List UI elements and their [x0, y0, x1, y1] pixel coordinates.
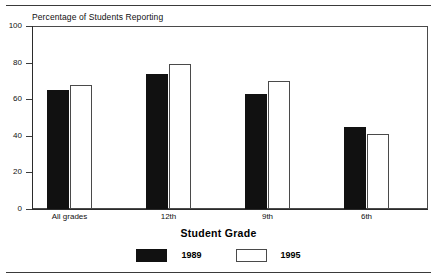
x-tick-label-9th: 9th: [225, 213, 310, 221]
y-tick-label-80: 80: [0, 59, 22, 67]
y-tick-100: [26, 26, 32, 27]
top-divider-rule: [6, 5, 431, 6]
chart-title: Percentage of Students Reporting: [32, 12, 163, 22]
y-tick-label-20: 20: [0, 168, 22, 176]
y-tick-40: [26, 136, 32, 137]
bar-1989-12th: [146, 74, 168, 209]
y-tick-label-0: 0: [0, 205, 22, 213]
legend-label-1995: 1995: [281, 251, 301, 260]
y-tick-20: [26, 172, 32, 173]
bar-1995-all-grades: [70, 85, 92, 209]
chart-figure: Percentage of Students Reporting 100 80 …: [0, 0, 437, 279]
y-tick-80: [26, 63, 32, 64]
y-tick-60: [26, 99, 32, 100]
y-tick-label-100: 100: [0, 22, 22, 30]
x-tick-label-12th: 12th: [126, 213, 211, 221]
bar-1995-12th: [169, 64, 191, 209]
x-axis-title: Student Grade: [0, 227, 437, 239]
legend-label-1989: 1989: [181, 251, 201, 260]
bar-1989-all-grades: [47, 90, 69, 209]
bottom-divider-rule: [6, 272, 431, 273]
x-axis-line: [32, 209, 428, 210]
x-tick-label-all-grades: All grades: [27, 213, 112, 221]
bar-1995-9th: [268, 81, 290, 209]
y-tick-0: [26, 209, 32, 210]
legend-swatch-1995: [236, 249, 267, 262]
y-axis-line: [32, 26, 33, 210]
bar-1995-6th: [367, 134, 389, 209]
y-tick-label-40: 40: [0, 132, 22, 140]
legend-swatch-1989: [136, 249, 167, 262]
y-tick-label-60: 60: [0, 95, 22, 103]
legend-item-1989: 1989: [136, 249, 201, 262]
chart-legend: 1989 1995: [0, 249, 437, 262]
bar-1989-6th: [344, 127, 366, 209]
x-tick-label-6th: 6th: [324, 213, 409, 221]
bar-1989-9th: [245, 94, 267, 209]
legend-item-1995: 1995: [236, 249, 301, 262]
